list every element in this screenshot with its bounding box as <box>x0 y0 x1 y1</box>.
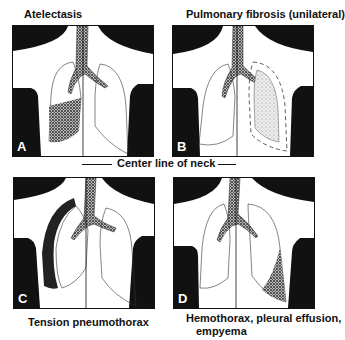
panel-a-atelectasis: A <box>12 25 154 157</box>
panel-d-title-line2: empyema <box>196 325 247 337</box>
trachea <box>217 178 258 242</box>
panel-c-tension-pneumothorax: C <box>13 177 155 309</box>
panel-c-title: Tension pneumothorax <box>28 316 149 328</box>
panel-a-letter: A <box>17 139 26 154</box>
center-line-arrow-right <box>218 164 236 165</box>
panel-b-pulmonary-fibrosis: B <box>172 25 314 157</box>
panel-d-letter: D <box>178 291 187 306</box>
shoulder-right <box>98 26 153 54</box>
center-line-label: Center line of neck <box>114 157 218 169</box>
fibrosis-shading <box>254 70 279 142</box>
center-line-arrow-left <box>82 164 112 165</box>
panel-b-letter: B <box>177 139 186 154</box>
panel-d-title-line1: Hemothorax, pleural effusion, <box>186 312 341 324</box>
effusion-shading <box>262 248 286 302</box>
panel-d-hemothorax: D <box>173 177 315 309</box>
trachea <box>68 26 108 94</box>
panel-a-title: Atelectasis <box>24 8 82 20</box>
atelectasis-shading <box>49 98 81 142</box>
lung-left <box>95 64 128 154</box>
panel-c-letter: C <box>18 291 27 306</box>
shoulder-left <box>13 26 68 51</box>
panel-b-title: Pulmonary fibrosis (unilateral) <box>186 8 345 20</box>
arm-right <box>127 84 153 156</box>
pneumothorax-dark-band <box>42 198 76 289</box>
lung-right <box>200 204 230 288</box>
